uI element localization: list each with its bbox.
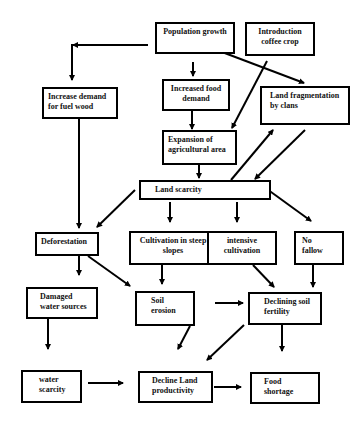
node-increase-demand-fuel-wood: Increase demand for fuel wood [42,87,118,119]
node-increased-food-demand: Increased food demand [162,79,230,111]
node-soil-erosion: Soil erosion [135,291,195,326]
node-population-growth: Population growth [155,22,235,54]
node-deforestation: Deforestation [35,232,99,256]
node-food-shortage: Food shortage [250,372,320,404]
node-damaged-water-sources: Damaged water sources [26,287,98,319]
node-no-fallow: No fallow [294,231,344,265]
node-land-scarcity: Land scarcity [139,180,271,200]
node-intensive-cultivation: intensive cultivation [207,231,277,265]
node-expansion-agricultural-area: Expansion of agricultural area [162,130,237,165]
node-declining-soil-fertility: Declining soil fertility [248,292,322,325]
node-decline-land-productivity: Decline Land productivity [138,371,213,403]
node-cultivation-steep-slopes: Cultivation in steep slopes [129,231,217,265]
connector-arrows [0,0,361,427]
flowchart-canvas: Population growth Introduction coffee cr… [0,0,361,427]
node-introduction-coffee-crop: Introduction coffee crop [245,22,315,56]
node-land-fragmentation: Land fragmentation by clans [260,86,350,125]
node-water-scarcity: water scarcity [21,370,82,403]
